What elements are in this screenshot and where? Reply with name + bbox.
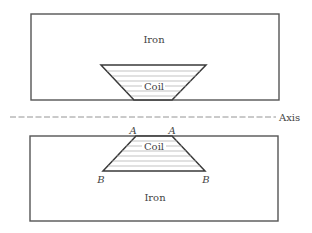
coil-iron-diagram: Iron Coil Axis Iron bbox=[0, 0, 312, 233]
label-b-right: B bbox=[201, 174, 209, 185]
upper-coil-label: Coil bbox=[144, 81, 164, 92]
axis-label: Axis bbox=[278, 112, 300, 123]
label-b-left: B bbox=[96, 174, 104, 185]
label-a-right: A bbox=[167, 125, 175, 136]
lower-coil: Coil bbox=[103, 136, 205, 171]
axis: Axis bbox=[10, 112, 300, 123]
lower-iron-label: Iron bbox=[144, 192, 166, 203]
upper-coil: Coil bbox=[101, 65, 206, 100]
label-a-left: A bbox=[128, 125, 136, 136]
upper-iron-label: Iron bbox=[143, 34, 165, 45]
lower-coil-label: Coil bbox=[144, 141, 164, 152]
